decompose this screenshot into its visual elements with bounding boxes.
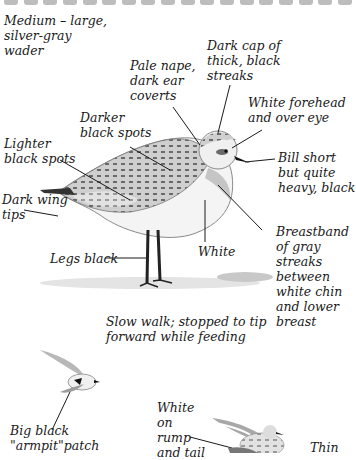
label-forehead: White forehead and over eye	[248, 95, 346, 125]
label-thin: Thin	[310, 440, 338, 455]
label-cap: Dark cap of thick, black streaks	[207, 38, 281, 83]
label-lighter-spots: Lighter black spots	[4, 136, 75, 166]
flying-plover-small	[40, 350, 100, 393]
label-rump: White on rump and tail	[157, 400, 205, 460]
label-size: Medium – large, silver-gray wader	[4, 13, 107, 58]
label-white-belly: White	[198, 244, 235, 259]
label-walk: Slow walk; stopped to tip forward while …	[106, 314, 267, 344]
label-bill: Bill short but quite heavy, black	[278, 150, 355, 195]
label-breastband: Breastband of gray streaks between white…	[276, 224, 349, 329]
label-armpit: Big black "armpit"patch	[10, 423, 99, 453]
flying-plover-large	[212, 418, 284, 453]
label-wing-tips: Dark wing tips	[2, 192, 68, 222]
label-legs: Legs black	[50, 251, 118, 266]
label-nape: Pale nape, dark ear coverts	[130, 58, 196, 103]
label-darker-spots: Darker black spots	[80, 110, 151, 140]
